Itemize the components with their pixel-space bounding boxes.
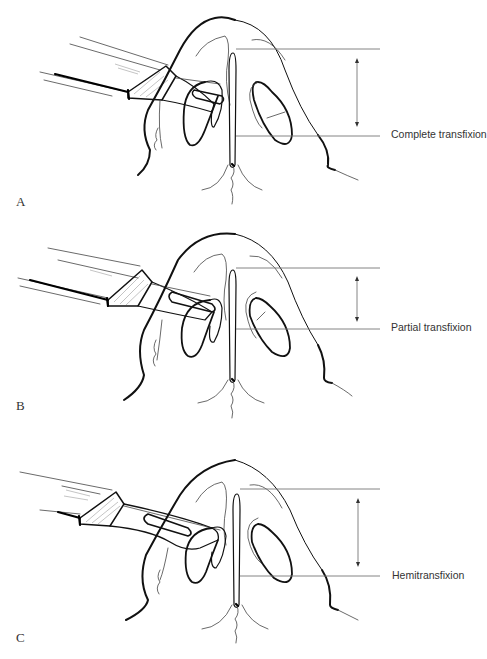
nose-outline <box>126 460 358 643</box>
panel-b: Partial transfixion B <box>0 220 487 430</box>
scalpel-icon <box>40 37 224 112</box>
label-complete-transfixion: Complete transfixion <box>391 128 487 140</box>
panel-c: Hemitransfixion C <box>0 430 487 659</box>
nose-outline <box>138 17 358 204</box>
nose-illustration-hemitransfixion <box>0 430 487 659</box>
scalpel-icon <box>18 248 215 320</box>
nose-outline <box>124 234 352 418</box>
panel-a: Complete transfixion A <box>0 0 487 215</box>
nose-illustration-complete-transfixion <box>0 0 487 215</box>
panel-letter-a: A <box>16 194 25 210</box>
panel-letter-b: B <box>16 398 25 414</box>
panel-letter-c: C <box>16 630 25 646</box>
label-partial-transfixion: Partial transfixion <box>391 321 472 333</box>
label-hemitransfixion: Hemitransfixion <box>392 569 464 581</box>
